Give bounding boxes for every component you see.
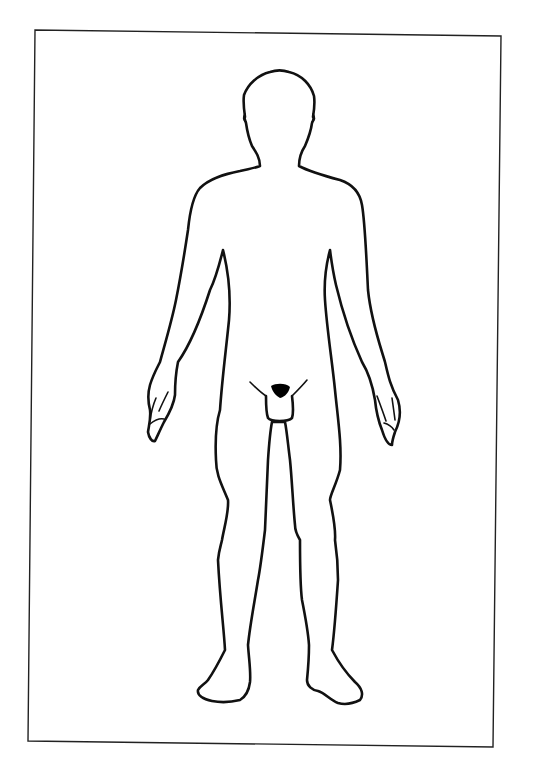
diagram-frame xyxy=(28,30,501,747)
body-outline-diagram xyxy=(0,0,541,768)
left-hand-thumb-line xyxy=(150,419,164,424)
right-hand-thumb-line xyxy=(384,423,394,430)
scrotum-outline xyxy=(266,396,293,421)
pubic-mark xyxy=(271,384,290,398)
left-groin-line xyxy=(250,382,266,396)
left-hand-finger-line-2 xyxy=(159,392,168,411)
right-hand-finger-line-2 xyxy=(392,398,395,420)
right-groin-line xyxy=(292,380,307,396)
